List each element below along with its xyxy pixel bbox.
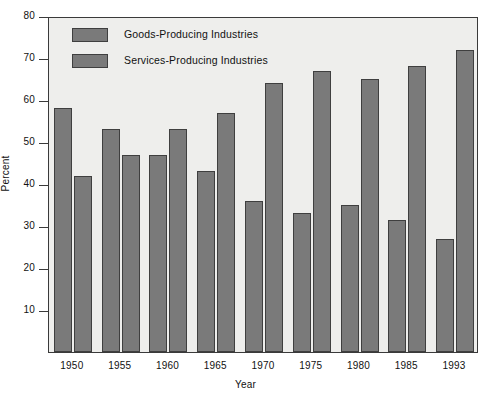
y-axis-tick-label: 30 <box>9 220 35 231</box>
legend-swatch-services <box>72 54 108 68</box>
bar-services-1980 <box>361 79 379 352</box>
y-axis-tick-mark <box>39 143 48 144</box>
x-axis-tick-label: 1970 <box>240 360 286 371</box>
y-axis-tick-label: 20 <box>9 262 35 273</box>
y-axis-tick-label: 10 <box>9 304 35 315</box>
y-axis-tick-label: 50 <box>9 136 35 147</box>
bar-goods-1955 <box>102 129 120 352</box>
y-axis-tick-mark <box>39 311 48 312</box>
plot-area <box>48 17 478 353</box>
bar-services-1960 <box>169 129 187 352</box>
legend-item-label: Goods-Producing Industries <box>124 28 258 40</box>
y-axis-tick-mark <box>39 17 48 18</box>
bar-goods-1960 <box>149 155 167 352</box>
x-axis-tick-label: 1975 <box>288 360 334 371</box>
y-axis-tick-label: 40 <box>9 178 35 189</box>
y-axis-tick-label: 60 <box>9 94 35 105</box>
y-axis-tick-label: 80 <box>9 10 35 21</box>
y-axis-tick-mark <box>39 101 48 102</box>
bar-goods-1970 <box>245 201 263 352</box>
bar-services-1970 <box>265 83 283 352</box>
bar-goods-1993 <box>436 239 454 352</box>
y-axis-tick-mark <box>39 269 48 270</box>
y-axis-tick-mark <box>39 227 48 228</box>
x-axis-tick-label: 1993 <box>431 360 477 371</box>
x-axis-tick-label: 1985 <box>383 360 429 371</box>
bar-services-1950 <box>74 176 92 352</box>
x-axis-tick-label: 1955 <box>97 360 143 371</box>
legend-item-label: Services-Producing Industries <box>124 54 268 66</box>
bar-goods-1950 <box>54 108 72 352</box>
x-axis-tick-label: 1950 <box>49 360 95 371</box>
legend-swatch-goods <box>72 28 108 42</box>
bars-container <box>49 18 477 352</box>
bar-services-1985 <box>408 66 426 352</box>
bar-goods-1985 <box>388 220 406 352</box>
bar-goods-1965 <box>197 171 215 352</box>
y-axis-title: Percent <box>0 156 11 192</box>
bar-services-1965 <box>217 113 235 352</box>
bar-goods-1980 <box>341 205 359 352</box>
x-axis-tick-label: 1980 <box>336 360 382 371</box>
bar-services-1993 <box>456 50 474 352</box>
x-axis-tick-label: 1960 <box>144 360 190 371</box>
y-axis-tick-mark <box>39 59 48 60</box>
bar-services-1955 <box>122 155 140 352</box>
y-axis-tick-mark <box>39 185 48 186</box>
bar-services-1975 <box>313 71 331 352</box>
x-axis-tick-label: 1965 <box>192 360 238 371</box>
bar-goods-1975 <box>293 213 311 352</box>
y-axis-tick-label: 70 <box>9 52 35 63</box>
chart-screenshot: 1020304050607080 Percent 195019551960196… <box>0 0 491 400</box>
x-axis-title: Year <box>0 379 491 390</box>
